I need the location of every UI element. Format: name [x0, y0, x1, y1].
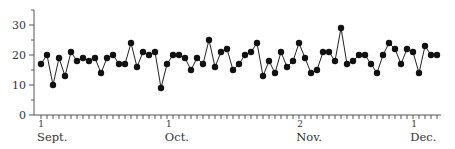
data-point: [188, 67, 194, 73]
data-point: [116, 61, 122, 67]
data-point: [296, 40, 302, 46]
y-axis: 0102030: [12, 10, 34, 122]
data-point: [260, 73, 266, 79]
data-point: [368, 61, 374, 67]
y-tick-label: 0: [19, 109, 26, 122]
data-point: [56, 55, 62, 61]
data-point: [302, 55, 308, 61]
data-point: [350, 58, 356, 64]
data-point: [356, 52, 362, 58]
line-chart: 0102030 1Sept.1Oct.2Nov.1Dec.: [0, 0, 455, 149]
data-point: [404, 46, 410, 52]
data-point: [320, 49, 326, 55]
x-month-label: Dec.: [410, 130, 436, 144]
data-point: [134, 64, 140, 70]
data-point: [272, 70, 278, 76]
data-point: [128, 40, 134, 46]
data-point: [164, 61, 170, 67]
data-point: [122, 61, 128, 67]
data-point: [104, 55, 110, 61]
series-line: [41, 28, 437, 88]
data-point: [392, 46, 398, 52]
data-point: [314, 67, 320, 73]
data-point: [146, 52, 152, 58]
data-point: [398, 61, 404, 67]
data-point: [380, 52, 386, 58]
data-point: [434, 52, 440, 58]
data-point: [158, 85, 164, 91]
data-point: [98, 70, 104, 76]
data-point: [308, 70, 314, 76]
data-point: [284, 64, 290, 70]
data-point: [254, 40, 260, 46]
data-point: [152, 49, 158, 55]
data-point: [170, 52, 176, 58]
data-point: [74, 58, 80, 64]
data-point: [62, 73, 68, 79]
data-point: [206, 37, 212, 43]
data-point: [68, 49, 74, 55]
data-point: [230, 67, 236, 73]
data-point: [290, 58, 296, 64]
y-tick-label: 10: [12, 79, 26, 92]
data-point: [44, 52, 50, 58]
x-day-label: 1: [411, 119, 417, 129]
data-point: [224, 46, 230, 52]
data-point: [110, 52, 116, 58]
x-axis: 1Sept.1Oct.2Nov.1Dec.: [34, 115, 441, 144]
data-point: [332, 58, 338, 64]
data-point: [374, 70, 380, 76]
data-point: [92, 55, 98, 61]
data-point: [242, 52, 248, 58]
data-point: [278, 49, 284, 55]
data-point: [386, 40, 392, 46]
data-point: [248, 49, 254, 55]
y-tick-label: 30: [12, 19, 26, 32]
data-point: [428, 52, 434, 58]
data-point: [176, 52, 182, 58]
data-point: [236, 61, 242, 67]
x-day-label: 2: [297, 119, 303, 129]
data-point: [86, 58, 92, 64]
data-point: [266, 58, 272, 64]
data-point: [362, 52, 368, 58]
data-point: [338, 25, 344, 31]
x-month-label: Nov.: [296, 130, 322, 144]
data-point: [422, 43, 428, 49]
data-point: [80, 55, 86, 61]
data-point: [416, 70, 422, 76]
y-tick-label: 20: [12, 49, 26, 62]
data-series: [38, 25, 440, 91]
data-point: [140, 49, 146, 55]
data-point: [38, 61, 44, 67]
x-month-label: Sept.: [37, 130, 67, 144]
data-point: [194, 55, 200, 61]
x-day-label: 1: [166, 119, 172, 129]
data-point: [200, 61, 206, 67]
data-point: [212, 64, 218, 70]
data-point: [344, 61, 350, 67]
data-point: [182, 55, 188, 61]
data-point: [410, 49, 416, 55]
data-point: [218, 49, 224, 55]
data-point: [50, 82, 56, 88]
x-month-label: Oct.: [165, 130, 189, 144]
x-day-label: 1: [38, 119, 44, 129]
data-point: [326, 49, 332, 55]
